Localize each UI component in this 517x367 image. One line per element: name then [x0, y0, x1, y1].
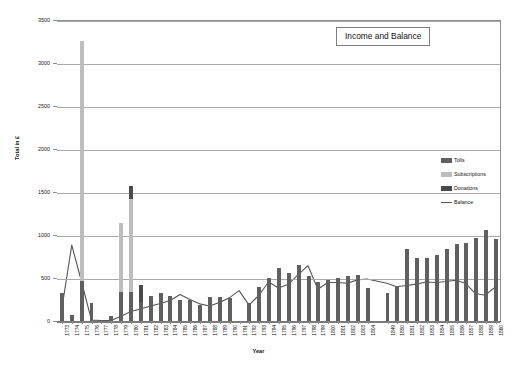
- bar-segment: [129, 292, 133, 321]
- x-axis-tick-label: 1860: [498, 325, 504, 336]
- x-axis-tick-label: 1799: [320, 325, 326, 336]
- x-axis-tick-mark: [457, 321, 458, 324]
- bar-group: [484, 230, 488, 321]
- bar-segment: [464, 243, 468, 321]
- y-axis-tick-label: 2500: [38, 103, 50, 109]
- x-axis-tick-mark: [170, 321, 171, 324]
- x-axis-tick-label: 1800: [330, 325, 336, 336]
- bar-segment: [119, 292, 123, 321]
- bar-group: [267, 278, 271, 321]
- x-axis-tick-mark: [210, 321, 211, 324]
- x-axis-tick-mark: [397, 321, 398, 324]
- x-axis-tick-label: 1793: [261, 325, 267, 336]
- bar-group: [405, 249, 409, 321]
- gridline: [57, 21, 500, 22]
- bar-group: [178, 300, 182, 321]
- x-axis-tick-mark: [318, 321, 319, 324]
- legend-label: Subscriptions: [454, 172, 486, 177]
- legend-item: Balance: [441, 199, 517, 206]
- gridline: [57, 64, 500, 65]
- bar-segment: [129, 186, 133, 199]
- bar-segment: [415, 258, 419, 321]
- x-axis-tick-label: 1778: [113, 325, 119, 336]
- bar-segment: [346, 276, 350, 321]
- x-axis-tick-label: 1787: [202, 325, 208, 336]
- x-axis-ticks: 1773177417751776177717781779178017811782…: [57, 321, 501, 365]
- x-axis-tick-label: 1782: [153, 325, 159, 336]
- x-axis-tick-label: 1854: [439, 325, 445, 336]
- x-axis-tick-mark: [269, 321, 270, 324]
- x-axis-tick-label: 1857: [468, 325, 474, 336]
- x-axis-tick-mark: [279, 321, 280, 324]
- x-axis-tick-mark: [328, 321, 329, 324]
- bar-group: [277, 268, 281, 321]
- plot-area: [57, 20, 501, 321]
- bar-group: [297, 265, 301, 321]
- y-axis-tick-label: 1500: [38, 189, 50, 195]
- x-axis-tick-mark: [388, 321, 389, 324]
- bar-segment: [386, 293, 390, 321]
- bar-group: [445, 249, 449, 321]
- y-axis-tick-label: 3500: [38, 17, 50, 23]
- x-axis-tick-mark: [486, 321, 487, 324]
- gridline: [57, 236, 500, 237]
- x-axis-tick-mark: [348, 321, 349, 324]
- bar-segment: [119, 223, 123, 293]
- bar-group: [336, 278, 340, 321]
- legend-item: Donations: [441, 185, 517, 192]
- bar-segment: [168, 296, 172, 321]
- bar-group: [366, 288, 370, 321]
- x-axis-tick-mark: [417, 321, 418, 324]
- bar-segment: [60, 293, 64, 321]
- x-axis-tick-mark: [230, 321, 231, 324]
- x-axis-tick-mark: [141, 321, 142, 324]
- legend-item: Subscriptions: [441, 171, 517, 178]
- bar-segment: [395, 287, 399, 321]
- x-axis-tick-label: 1779: [123, 325, 129, 336]
- x-axis-tick-mark: [200, 321, 201, 324]
- x-axis-tick-label: 1788: [212, 325, 218, 336]
- x-axis-tick-mark: [309, 321, 310, 324]
- x-axis-tick-mark: [289, 321, 290, 324]
- bar-group: [425, 258, 429, 321]
- x-axis-tick-label: 1775: [84, 325, 90, 336]
- x-axis-tick-label: 1851: [409, 325, 415, 336]
- x-axis-tick-mark: [131, 321, 132, 324]
- x-axis-tick-label: 1780: [133, 325, 139, 336]
- bar-segment: [228, 298, 232, 321]
- x-axis-tick-label: 1795: [281, 325, 287, 336]
- bar-segment: [455, 244, 459, 321]
- bar-segment: [297, 265, 301, 321]
- bar-group: [494, 239, 498, 321]
- x-axis-tick-label: 1858: [478, 325, 484, 336]
- y-axis-tick-label: 2000: [38, 146, 50, 152]
- bar-group: [307, 276, 311, 321]
- x-axis-tick-label: 1850: [399, 325, 405, 336]
- bar-group: [464, 243, 468, 321]
- bar-segment: [80, 41, 84, 282]
- bar-segment: [129, 199, 133, 292]
- gridline: [57, 107, 500, 108]
- x-axis-tick-label: 1797: [301, 325, 307, 336]
- x-axis-tick-mark: [338, 321, 339, 324]
- bar-segment: [484, 230, 488, 321]
- x-axis-tick-label: 1777: [103, 325, 109, 336]
- legend-line-icon: [441, 202, 452, 203]
- x-axis-tick-label: 1786: [192, 325, 198, 336]
- x-axis-tick-label: 1792: [251, 325, 257, 336]
- bar-group: [168, 296, 172, 321]
- x-axis-tick-mark: [476, 321, 477, 324]
- x-axis-tick-label: 1853: [429, 325, 435, 336]
- x-axis-tick-mark: [299, 321, 300, 324]
- x-axis-tick-label: 1794: [271, 325, 277, 336]
- x-axis-tick-label: 1791: [242, 325, 248, 336]
- x-axis-tick-label: 1773: [64, 325, 70, 336]
- bar-group: [218, 297, 222, 321]
- y-axis-tick-label: 3000: [38, 60, 50, 66]
- x-axis-tick-mark: [466, 321, 467, 324]
- bar-segment: [198, 305, 202, 321]
- x-axis-tick-label: 1849: [390, 325, 396, 336]
- x-axis-tick-label: 1790: [232, 325, 238, 336]
- bar-group: [356, 275, 360, 321]
- x-axis-tick-label: 1776: [94, 325, 100, 336]
